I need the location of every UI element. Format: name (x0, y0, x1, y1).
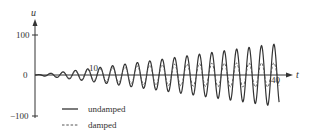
legend-damped-label: damped (88, 120, 117, 130)
y-axis-arrow-icon (33, 19, 38, 26)
y-tick-label-neg100: −100 (10, 111, 29, 121)
legend: undamped damped (62, 104, 126, 130)
x-axis-arrow-icon (286, 73, 293, 78)
chart: u t 100 0 −100 10 40 undamped damped (0, 0, 311, 134)
y-tick-label-0: 0 (23, 70, 28, 80)
y-tick-label-100: 100 (16, 30, 30, 40)
y-axis-label: u (31, 7, 36, 18)
x-tick-label-40: 40 (271, 75, 281, 85)
x-axis-label: t (296, 69, 299, 80)
legend-undamped-label: undamped (88, 104, 126, 114)
x-tick-label-10: 10 (89, 63, 99, 73)
